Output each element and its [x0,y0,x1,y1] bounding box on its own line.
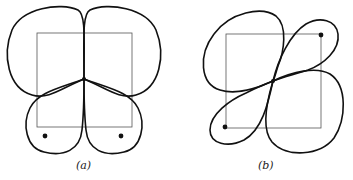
panel-b: (b) [203,11,343,172]
marked-point-b-top-right [319,33,324,38]
lobe-bottom-right-b [266,70,343,153]
marked-point-b-bottom-left [223,125,228,130]
center-node-a [82,77,86,81]
marked-point-a-left [43,134,48,139]
panel-label-b: (b) [258,159,274,172]
lobe-bottom-right-a [84,79,142,154]
panel-a: (a) [7,7,160,172]
center-node-b [271,79,275,83]
panel-label-a: (a) [76,159,91,172]
marked-point-a-right [119,134,124,139]
lobe-bottom-left-a [26,79,84,154]
figure: (a) (b) [0,0,353,180]
